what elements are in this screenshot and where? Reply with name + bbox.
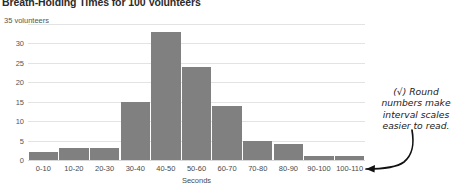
y-axis-tick-label: 20 (16, 78, 24, 87)
bar (90, 148, 119, 160)
annotation-line-1: (√) Round (368, 86, 464, 97)
bar-series (28, 24, 365, 160)
y-axis-tick-label: 0 (20, 156, 24, 165)
x-axis-tick-label: 80-90 (279, 164, 298, 173)
annotation-text: (√) Round numbers make interval scales e… (368, 86, 464, 132)
chart-title: Breath-Holding Times for 100 Volunteers (2, 0, 201, 8)
bar (274, 144, 303, 160)
y-axis-tick-label: 25 (16, 58, 24, 67)
bar (151, 32, 180, 160)
x-axis-tick-label: 70-80 (248, 164, 267, 173)
y-axis-tick-label: 30 (16, 39, 24, 48)
x-axis-tick-label: 10-20 (64, 164, 83, 173)
annotation-line-2: numbers make (368, 97, 464, 108)
bar (304, 156, 333, 160)
bar (121, 102, 150, 160)
y-axis-tick-label: 10 (16, 117, 24, 126)
y-axis-tick-label: 5 (20, 136, 24, 145)
x-axis-title: Seconds (28, 176, 365, 185)
x-axis-tick-label: 60-70 (218, 164, 237, 173)
bar (59, 148, 88, 160)
bar (243, 141, 272, 160)
bar (29, 152, 58, 160)
bar (212, 106, 241, 160)
gridline (28, 160, 365, 161)
x-axis-tick-label: 90-100 (307, 164, 330, 173)
x-axis-tick-label: 0-10 (36, 164, 51, 173)
x-axis-tick-label: 20-30 (95, 164, 114, 173)
x-axis-tick-label: 30-40 (126, 164, 145, 173)
x-axis-tick-label: 50-60 (187, 164, 206, 173)
plot-area: 051015202530 0-1010-2020-3030-4040-5050-… (28, 24, 365, 160)
histogram-figure: Breath-Holding Times for 100 Volunteers … (0, 0, 465, 188)
x-axis-tick-label: 40-50 (156, 164, 175, 173)
annotation-line-3: interval scales (368, 109, 464, 120)
y-axis-tick-label: 15 (16, 97, 24, 106)
annotation-arrow-icon (352, 128, 438, 176)
bar (182, 67, 211, 160)
